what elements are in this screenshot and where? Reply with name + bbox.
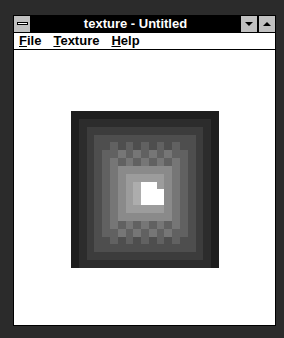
texture-cell	[164, 189, 172, 197]
texture-cell	[110, 229, 118, 237]
texture-cell	[188, 150, 196, 158]
texture-cell	[180, 166, 188, 174]
texture-cell	[110, 158, 118, 166]
menu-help[interactable]: Help	[105, 33, 145, 49]
minimize-button[interactable]	[240, 16, 257, 32]
texture-cell	[211, 182, 219, 190]
maximize-button[interactable]	[258, 16, 275, 32]
texture-cell	[79, 213, 87, 221]
texture-cell	[141, 197, 149, 205]
texture-cell	[133, 197, 141, 205]
texture-cell	[180, 127, 188, 135]
window-title: texture - Untitled	[32, 16, 239, 32]
texture-cell	[102, 205, 110, 213]
texture-cell	[71, 237, 79, 245]
texture-cell	[102, 158, 110, 166]
texture-cell	[94, 142, 102, 150]
texture-cell	[87, 166, 95, 174]
texture-cell	[94, 244, 102, 252]
texture-cell	[164, 174, 172, 182]
texture-cell	[172, 135, 180, 143]
texture-cell	[203, 166, 211, 174]
texture-cell	[133, 252, 141, 260]
texture-cell	[110, 150, 118, 158]
menu-file[interactable]: File	[14, 33, 47, 49]
texture-cell	[203, 174, 211, 182]
texture-cell	[126, 158, 134, 166]
texture-cell	[126, 244, 134, 252]
texture-cell	[196, 237, 204, 245]
texture-cell	[118, 237, 126, 245]
texture-cell	[141, 119, 149, 127]
texture-cell	[94, 135, 102, 143]
texture-cell	[164, 252, 172, 260]
texture-cell	[133, 237, 141, 245]
texture-cell	[118, 213, 126, 221]
texture-cell	[133, 182, 141, 190]
menu-file-label: ile	[27, 33, 41, 48]
texture-cell	[141, 111, 149, 119]
texture-cell	[118, 221, 126, 229]
texture-cell	[87, 205, 95, 213]
texture-cell	[79, 166, 87, 174]
texture-cell	[164, 244, 172, 252]
texture-cell	[172, 213, 180, 221]
texture-cell	[211, 119, 219, 127]
texture-cell	[203, 150, 211, 158]
texture-cell	[141, 127, 149, 135]
texture-cell	[79, 150, 87, 158]
texture-cell	[141, 174, 149, 182]
menu-texture[interactable]: Texture	[47, 33, 105, 49]
system-menu-button[interactable]	[14, 16, 31, 32]
texture-cell	[149, 189, 157, 197]
texture-cell	[87, 182, 95, 190]
texture-cell	[188, 237, 196, 245]
texture-cell	[110, 252, 118, 260]
texture-cell	[102, 221, 110, 229]
texture-cell	[180, 119, 188, 127]
texture-cell	[196, 119, 204, 127]
texture-cell	[196, 142, 204, 150]
texture-cell	[133, 119, 141, 127]
texture-cell	[157, 127, 165, 135]
texture-cell	[102, 197, 110, 205]
texture-cell	[71, 197, 79, 205]
texture-cell	[172, 244, 180, 252]
texture-cell	[172, 197, 180, 205]
texture-cell	[71, 150, 79, 158]
title-bar[interactable]: texture - Untitled	[14, 16, 275, 32]
texture-cell	[71, 252, 79, 260]
texture-cell	[157, 174, 165, 182]
texture-cell	[126, 229, 134, 237]
texture-cell	[102, 127, 110, 135]
texture-cell	[157, 142, 165, 150]
texture-cell	[94, 158, 102, 166]
texture-cell	[157, 197, 165, 205]
texture-cell	[87, 189, 95, 197]
texture-cell	[172, 182, 180, 190]
texture-cell	[157, 260, 165, 268]
texture-cell	[126, 260, 134, 268]
texture-cell	[188, 213, 196, 221]
texture-cell	[102, 213, 110, 221]
texture-cell	[126, 221, 134, 229]
texture-cell	[79, 244, 87, 252]
texture-cell	[71, 221, 79, 229]
app-window: texture - Untitled File Texture Help	[13, 15, 276, 326]
texture-cell	[172, 142, 180, 150]
texture-cell	[203, 221, 211, 229]
texture-cell	[180, 229, 188, 237]
texture-cell	[126, 237, 134, 245]
texture-cell	[203, 237, 211, 245]
texture-cell	[211, 150, 219, 158]
texture-cell	[157, 189, 165, 197]
texture-cell	[149, 150, 157, 158]
texture-cell	[110, 119, 118, 127]
texture-cell	[94, 111, 102, 119]
texture-cell	[188, 174, 196, 182]
texture-cell	[172, 189, 180, 197]
texture-cell	[203, 182, 211, 190]
texture-cell	[71, 166, 79, 174]
texture-cell	[164, 182, 172, 190]
texture-cell	[141, 244, 149, 252]
